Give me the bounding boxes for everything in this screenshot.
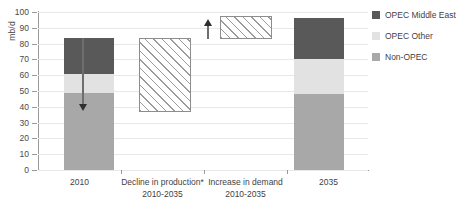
legend-item[interactable]: Non-OPEC	[372, 51, 448, 63]
legend-swatch-icon	[372, 32, 380, 40]
y-axis-tick	[32, 138, 37, 139]
decline-arrow-shaft	[82, 38, 84, 104]
y-axis-tick	[32, 12, 37, 13]
category-label-line1: 2035	[319, 177, 338, 187]
y-axis-label: 10	[20, 149, 29, 159]
y-axis-label: 20	[20, 133, 29, 143]
legend-swatch-icon	[372, 11, 380, 19]
category-label-2035: 2035	[287, 177, 370, 189]
bar-2010	[64, 12, 114, 170]
y-axis-label: 100	[15, 7, 29, 17]
category-label-increase-in-demand: Increase in demand 2010-2035	[204, 177, 287, 200]
y-axis-label: 70	[20, 54, 29, 64]
legend-item[interactable]: OPEC Other	[372, 30, 448, 42]
y-axis-label: 90	[20, 23, 29, 33]
x-axis-tick	[287, 170, 288, 174]
y-axis-label: 30	[20, 118, 29, 128]
y-axis-tick	[32, 107, 37, 108]
bar-segment-opec-other	[294, 59, 344, 94]
bar-segment-opec-middle-east	[294, 18, 344, 59]
bar-segment-non-opec	[294, 94, 344, 170]
bar-2035	[294, 12, 344, 170]
y-axis-tick	[32, 59, 37, 60]
y-axis-label: 40	[20, 102, 29, 112]
y-axis-tick	[32, 123, 37, 124]
floating-bar-increase-in-demand	[220, 16, 272, 39]
x-axis-tick	[121, 170, 122, 174]
category-label-line1: 2010	[70, 177, 89, 187]
category-label-decline-in-production: Decline in production* 2010-2035	[121, 177, 204, 200]
demand-arrow-head	[204, 19, 212, 26]
bar-segment-non-opec	[64, 93, 114, 170]
legend-item[interactable]: OPEC Middle East	[372, 9, 448, 21]
legend-swatch-icon	[372, 53, 380, 61]
category-label-line2: 2010-2035	[121, 189, 204, 201]
decline-arrow-head	[79, 104, 87, 111]
legend-item-label: Non-OPEC	[385, 52, 428, 62]
y-axis-tick	[32, 75, 37, 76]
category-label-2010: 2010	[38, 177, 121, 189]
y-axis-label: 0	[24, 165, 29, 175]
legend-item-label: OPEC Middle East	[385, 10, 456, 20]
y-axis-label: 60	[20, 70, 29, 80]
y-axis-label: 80	[20, 39, 29, 49]
plot-area: 1009080706050403020100	[38, 12, 368, 170]
y-axis-tick	[32, 44, 37, 45]
legend-item-label: OPEC Other	[385, 31, 433, 41]
y-axis-tick	[32, 170, 37, 171]
y-axis-tick	[32, 28, 37, 29]
demand-arrow-shaft	[207, 25, 209, 39]
category-label-line1: Decline in production*	[121, 177, 204, 187]
category-label-line2: 2010-2035	[204, 189, 287, 201]
y-axis-tick	[32, 91, 37, 92]
y-axis-label: 50	[20, 86, 29, 96]
y-axis-tick	[32, 154, 37, 155]
gridline	[38, 170, 368, 171]
legend: OPEC Middle EastOPEC OtherNon-OPEC	[372, 9, 448, 72]
x-axis-tick	[204, 170, 205, 174]
bar-segment-opec-middle-east	[64, 38, 114, 74]
bar-segment-opec-other	[64, 74, 114, 93]
floating-bar-decline-in-production	[139, 38, 191, 111]
category-label-line1: Increase in demand	[208, 177, 283, 187]
